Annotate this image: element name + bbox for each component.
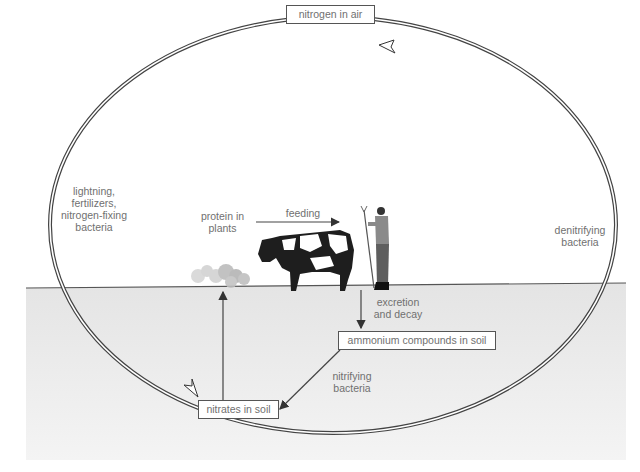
- air-arrowhead-icon: [379, 40, 395, 53]
- protein-in-plants-label: protein in plants: [195, 210, 250, 234]
- nitrogen-cycle-diagram: [0, 0, 640, 472]
- fixation-line-3: nitrogen-fixing: [52, 209, 136, 221]
- cow-icon: [258, 230, 354, 291]
- protein-line-2: plants: [195, 222, 250, 234]
- fixation-line-4: bacteria: [52, 221, 136, 233]
- excretion-line-1: excretion: [368, 296, 428, 308]
- farmer-icon: [361, 206, 389, 290]
- fixation-label: lightning, fertilizers, nitrogen-fixing …: [52, 185, 136, 233]
- excretion-label: excretion and decay: [368, 296, 428, 320]
- denitrifying-line-2: bacteria: [545, 236, 615, 248]
- fixation-line-2: fertilizers,: [52, 197, 136, 209]
- protein-line-1: protein in: [195, 210, 250, 222]
- excretion-line-2: and decay: [368, 308, 428, 320]
- denitrifying-label: denitrifying bacteria: [545, 224, 615, 248]
- feeding-label: feeding: [278, 207, 328, 219]
- nitrogen-in-air-box: nitrogen in air: [286, 5, 375, 24]
- plants-icon: [191, 264, 250, 288]
- nitrifying-line-1: nitrifying: [322, 370, 382, 382]
- ammonium-compounds-box: ammonium compounds in soil: [338, 331, 496, 350]
- fixation-line-1: lightning,: [52, 185, 136, 197]
- denitrifying-line-1: denitrifying: [545, 224, 615, 236]
- nitrifying-line-2: bacteria: [322, 382, 382, 394]
- nitrifying-label: nitrifying bacteria: [322, 370, 382, 394]
- nitrates-in-soil-box: nitrates in soil: [198, 400, 279, 419]
